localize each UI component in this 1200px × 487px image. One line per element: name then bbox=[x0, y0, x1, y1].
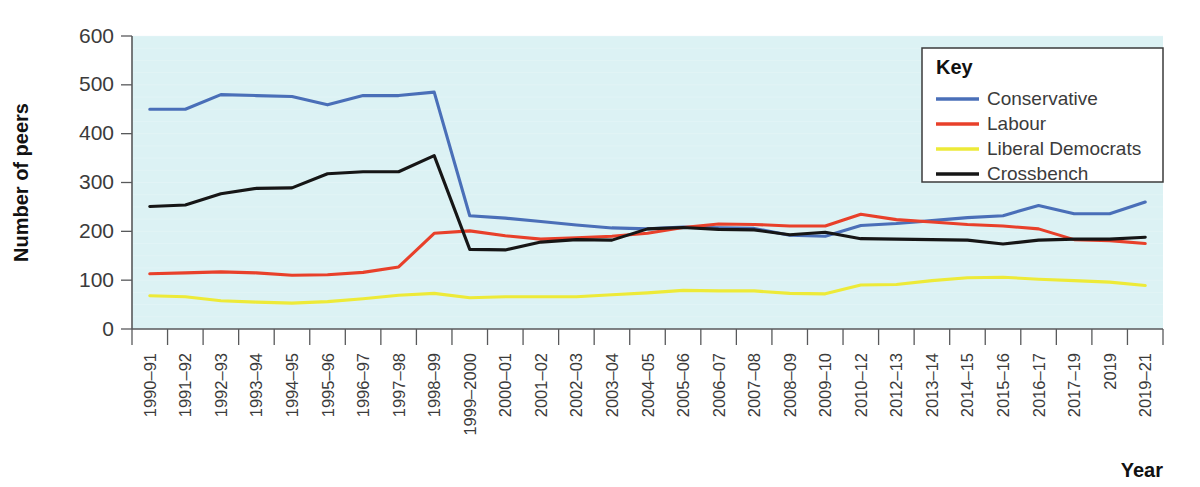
y-tick-label: 400 bbox=[79, 121, 114, 144]
legend-label-labour: Labour bbox=[987, 113, 1047, 134]
x-tick-label: 2008–09 bbox=[781, 353, 799, 417]
y-tick-label: 0 bbox=[102, 317, 114, 340]
y-tick-label: 200 bbox=[79, 219, 114, 242]
x-tick-label: 2007–08 bbox=[745, 353, 763, 417]
x-tick-label: 1997–98 bbox=[390, 353, 408, 417]
x-tick-label: 2009–10 bbox=[816, 353, 834, 417]
x-tick-label: 2004–05 bbox=[639, 353, 657, 417]
x-tick-label: 1996–97 bbox=[354, 353, 372, 417]
legend-title: Key bbox=[936, 56, 974, 78]
x-tick-label: 2000–01 bbox=[496, 353, 514, 417]
y-tick-label: 300 bbox=[79, 170, 114, 193]
legend-label-crossbench: Crossbench bbox=[987, 163, 1088, 184]
x-tick-label: 1991–92 bbox=[176, 353, 194, 417]
legend-label-liberal-democrats: Liberal Democrats bbox=[987, 138, 1141, 159]
x-tick-label: 2016–17 bbox=[1030, 353, 1048, 417]
x-tick-label: 2017–19 bbox=[1065, 353, 1083, 417]
legend: KeyConservativeLabourLiberal DemocratsCr… bbox=[922, 48, 1163, 184]
x-tick-label: 2014–15 bbox=[958, 353, 976, 417]
y-tick-label: 500 bbox=[79, 72, 114, 95]
x-tick-label: 2012–13 bbox=[887, 353, 905, 417]
x-tick-label: 2015–16 bbox=[994, 353, 1012, 417]
x-tick-label: 1998–99 bbox=[425, 353, 443, 417]
x-tick-label: 2010–12 bbox=[852, 353, 870, 417]
x-tick-label: 1995–96 bbox=[319, 353, 337, 417]
x-tick-label: 1993–94 bbox=[247, 353, 265, 417]
x-tick-label: 1990–91 bbox=[141, 353, 159, 417]
x-tick-label: 1999–2000 bbox=[461, 353, 479, 436]
x-tick-label: 2013–14 bbox=[923, 353, 941, 417]
x-tick-label: 2003–04 bbox=[603, 353, 621, 417]
y-axis-title: Number of peers bbox=[10, 103, 32, 262]
y-tick-label: 100 bbox=[79, 268, 114, 291]
x-tick-label: 2019 bbox=[1101, 353, 1119, 390]
y-tick-group: 0100200300400500600 bbox=[79, 24, 132, 340]
x-tick-group: 1990–911991–921992–931993–941994–951995–… bbox=[132, 329, 1163, 436]
x-tick-label: 2001–02 bbox=[532, 353, 550, 417]
peers-by-party-line-chart: 01002003004005006001990–911991–921992–93… bbox=[0, 0, 1200, 487]
x-axis-title: Year bbox=[1121, 459, 1163, 481]
x-tick-label: 2005–06 bbox=[674, 353, 692, 417]
chart-canvas: 01002003004005006001990–911991–921992–93… bbox=[0, 0, 1200, 487]
x-tick-label: 2002–03 bbox=[567, 353, 585, 417]
x-tick-label: 1994–95 bbox=[283, 353, 301, 417]
legend-label-conservative: Conservative bbox=[987, 88, 1098, 109]
y-tick-label: 600 bbox=[79, 24, 114, 47]
x-tick-label: 2006–07 bbox=[710, 353, 728, 417]
x-tick-label: 1992–93 bbox=[212, 353, 230, 417]
x-tick-label: 2019–21 bbox=[1136, 353, 1154, 417]
